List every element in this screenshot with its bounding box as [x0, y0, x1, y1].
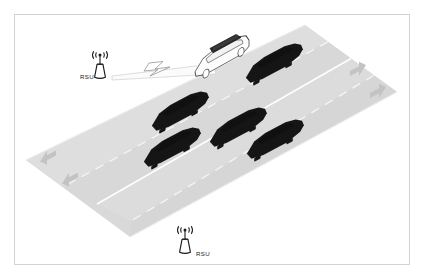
road-scene-illustration	[0, 0, 424, 279]
rsu-bottom-label: RSU	[196, 250, 210, 257]
diagram-canvas: RSU RSU	[0, 0, 424, 279]
rsu-bottom[interactable]	[178, 227, 193, 254]
rsu-left[interactable]	[93, 52, 108, 79]
rsu-left-label: RSU	[80, 73, 94, 80]
